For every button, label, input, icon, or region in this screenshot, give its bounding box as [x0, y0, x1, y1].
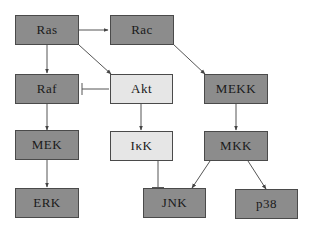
node-mkk: MKK [204, 131, 268, 161]
node-mekk: MEKK [204, 74, 268, 104]
node-erk: ERK [15, 188, 79, 218]
node-mek: MEK [15, 130, 79, 160]
node-ikk: IκK [110, 131, 173, 161]
node-rac: Rac [110, 15, 174, 45]
edge-mkk-jnk [192, 161, 210, 188]
node-raf: Raf [15, 74, 79, 104]
node-akt: Akt [110, 74, 173, 104]
edge-ras-akt [79, 45, 111, 74]
node-ras: Ras [15, 15, 79, 45]
edge-rac-mekk [173, 44, 205, 74]
node-p38: p38 [235, 189, 298, 219]
edge-mkk-p38 [248, 161, 266, 189]
node-jnk: JNK [143, 188, 206, 218]
